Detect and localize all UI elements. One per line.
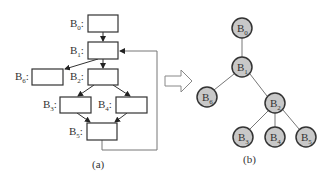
block-b2: B2: — [70, 69, 118, 85]
tree-edge-b2-b3 — [250, 111, 268, 129]
tree-edge-b1-b6 — [214, 74, 234, 90]
block-label: B6: — [15, 70, 29, 85]
block-label: B3: — [43, 98, 57, 113]
tree-node-b4: B4 — [265, 127, 285, 147]
tree-edge-b2-b5 — [283, 110, 299, 129]
tree-node-b0: B0 — [232, 18, 252, 38]
diagram-canvas: B0: B1: B6: B2: B3: B4: B5: (a) — [0, 0, 331, 182]
tree-node-b1: B1 — [232, 57, 252, 77]
tree-node-b5: B5 — [296, 127, 316, 147]
caption-b: (b) — [243, 153, 256, 166]
tree-node-b3: B3 — [233, 127, 253, 147]
hollow-right-arrow-icon — [165, 70, 192, 92]
edge-b2-b3 — [78, 85, 94, 96]
block-label: B0: — [70, 17, 84, 32]
caption-a: (a) — [92, 158, 105, 171]
tree-node-b2: B2 — [265, 93, 285, 113]
block-b1: B1: — [70, 42, 118, 59]
block-label: B2: — [70, 70, 84, 85]
block-label: B5: — [69, 125, 83, 140]
block-label: B4: — [98, 98, 112, 113]
edge-b2-b4 — [113, 85, 130, 96]
tree-edge-b1-b2 — [250, 74, 267, 96]
tree: B0 B1 B6 B2 B3 B4 B5 (b) — [197, 18, 316, 166]
block-label: B1: — [70, 44, 84, 59]
edge-b1-b6 — [65, 59, 98, 69]
tree-node-b6: B6 — [197, 87, 217, 107]
block-b5: B5: — [69, 123, 117, 140]
block-b0: B0: — [70, 15, 118, 32]
tree-edges — [214, 38, 299, 129]
block-b3: B3: — [43, 97, 91, 113]
block-b4: B4: — [98, 97, 147, 113]
edge-b4-b5 — [115, 113, 127, 122]
block-b6: B6: — [15, 69, 63, 85]
edge-b3-b5 — [77, 113, 90, 122]
flow-graph: B0: B1: B6: B2: B3: B4: B5: (a) — [15, 15, 157, 171]
